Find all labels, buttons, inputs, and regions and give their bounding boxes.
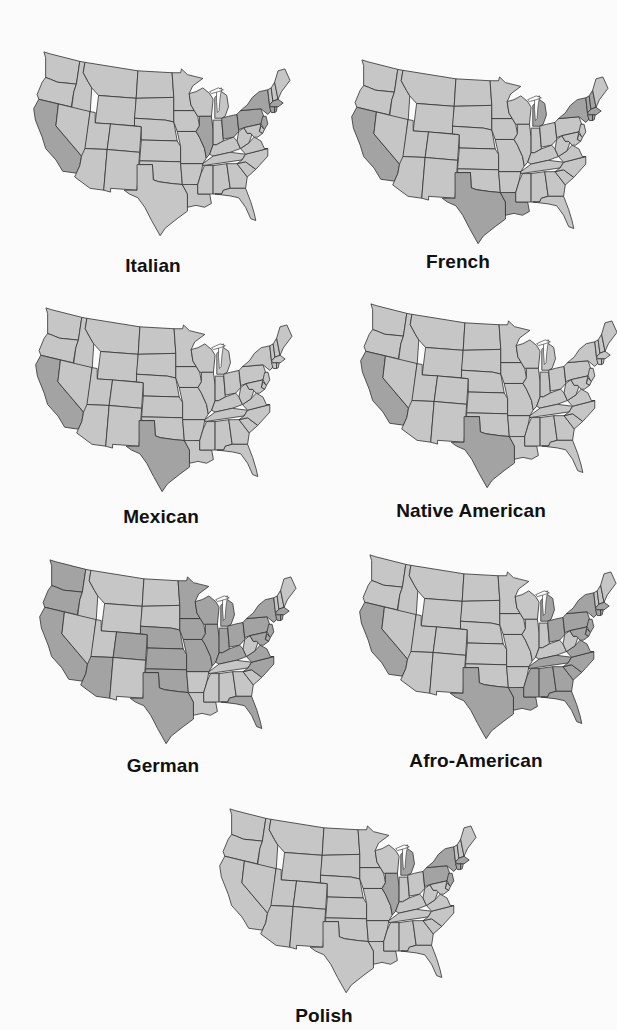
state-wy bbox=[281, 852, 322, 882]
map-label-native-american: Native American bbox=[396, 500, 546, 522]
state-nm bbox=[290, 906, 326, 949]
state-nm bbox=[430, 652, 466, 695]
state-oh bbox=[228, 622, 245, 647]
state-ia bbox=[174, 111, 200, 132]
state-co bbox=[113, 632, 147, 660]
state-oh bbox=[548, 617, 565, 642]
state-ri bbox=[277, 363, 280, 369]
map-panel-french bbox=[338, 58, 608, 238]
state-me bbox=[277, 325, 292, 355]
state-ks bbox=[140, 140, 181, 162]
us-map-german bbox=[26, 558, 296, 738]
map-label-german: German bbox=[127, 755, 199, 777]
state-nm bbox=[106, 405, 142, 448]
state-oh bbox=[540, 122, 557, 147]
state-ks bbox=[458, 148, 499, 170]
state-me bbox=[461, 826, 476, 856]
state-nm bbox=[104, 149, 140, 192]
state-nd bbox=[136, 71, 174, 98]
state-wy bbox=[101, 603, 142, 633]
state-co bbox=[107, 124, 141, 152]
state-wy bbox=[97, 351, 138, 381]
state-wy bbox=[413, 103, 454, 133]
state-wy bbox=[95, 95, 136, 125]
map-label-italian: Italian bbox=[125, 255, 181, 277]
state-nd bbox=[454, 79, 492, 106]
map-panel-german bbox=[26, 558, 296, 738]
map-panel-native-american bbox=[347, 302, 617, 482]
state-ri bbox=[281, 615, 284, 621]
state-nd bbox=[463, 323, 501, 350]
map-label-polish: Polish bbox=[295, 1005, 353, 1027]
state-me bbox=[602, 321, 617, 351]
us-map-afro-american bbox=[346, 553, 616, 733]
state-ks bbox=[467, 392, 508, 414]
state-me bbox=[601, 572, 616, 602]
state-me bbox=[593, 77, 608, 107]
state-nd bbox=[462, 574, 500, 601]
map-panel-mexican bbox=[22, 306, 292, 486]
state-ks bbox=[142, 396, 183, 418]
state-ri bbox=[461, 864, 464, 870]
state-co bbox=[433, 627, 467, 655]
state-oh bbox=[408, 871, 425, 896]
state-ia bbox=[180, 619, 206, 640]
state-co bbox=[425, 132, 459, 160]
us-map-french bbox=[338, 58, 608, 238]
map-label-mexican: Mexican bbox=[123, 506, 199, 528]
map-panel-italian bbox=[20, 50, 290, 230]
state-me bbox=[275, 69, 290, 99]
state-co bbox=[434, 376, 468, 404]
state-oh bbox=[224, 370, 241, 395]
state-oh bbox=[222, 114, 239, 139]
state-ia bbox=[492, 119, 518, 140]
state-ri bbox=[593, 115, 596, 121]
state-ri bbox=[601, 610, 604, 616]
state-wy bbox=[421, 598, 462, 628]
state-ia bbox=[360, 868, 386, 889]
state-ia bbox=[500, 614, 526, 635]
us-map-mexican bbox=[22, 306, 292, 486]
state-nd bbox=[142, 579, 180, 606]
map-panel-afro-american bbox=[346, 553, 616, 733]
state-co bbox=[109, 380, 143, 408]
state-ia bbox=[501, 363, 527, 384]
state-ri bbox=[602, 359, 605, 365]
state-ri bbox=[275, 107, 278, 113]
state-ia bbox=[176, 367, 202, 388]
state-nd bbox=[322, 828, 360, 855]
state-ks bbox=[466, 643, 507, 665]
state-oh bbox=[549, 366, 566, 391]
state-ks bbox=[326, 897, 367, 919]
state-ks bbox=[146, 648, 187, 670]
state-nm bbox=[110, 657, 146, 700]
map-label-afro-american: Afro-American bbox=[409, 750, 542, 772]
state-wy bbox=[422, 347, 463, 377]
map-label-french: French bbox=[426, 251, 490, 273]
state-nm bbox=[422, 157, 458, 200]
state-nd bbox=[138, 327, 176, 354]
us-map-native-american bbox=[347, 302, 617, 482]
state-me bbox=[281, 577, 296, 607]
map-panel-polish bbox=[206, 807, 476, 987]
state-nm bbox=[431, 401, 467, 444]
state-co bbox=[293, 881, 327, 909]
us-map-italian bbox=[20, 50, 290, 230]
us-map-polish bbox=[206, 807, 476, 987]
